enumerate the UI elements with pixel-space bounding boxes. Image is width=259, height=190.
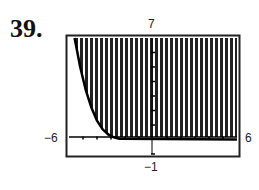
graph <box>0 0 259 190</box>
xmax-label: 6 <box>245 131 252 145</box>
ymax-label: 7 <box>148 17 155 31</box>
ymin-label: −1 <box>144 160 158 174</box>
xmin-label: −6 <box>44 131 58 145</box>
